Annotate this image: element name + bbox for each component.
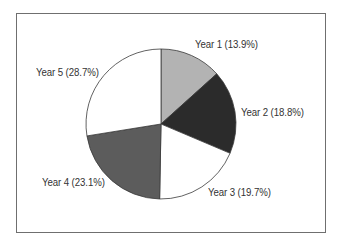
pie-slice-year-5 [86,49,161,136]
label-year-1: Year 1 (13.9%) [195,38,258,50]
label-year-2: Year 2 (18.8%) [241,106,304,118]
label-year-5: Year 5 (28.7%) [36,66,99,78]
label-year-3: Year 3 (19.7%) [208,186,271,198]
pie-chart [0,0,343,248]
label-year-4: Year 4 (23.1%) [42,176,105,188]
pie-slices [86,49,236,199]
